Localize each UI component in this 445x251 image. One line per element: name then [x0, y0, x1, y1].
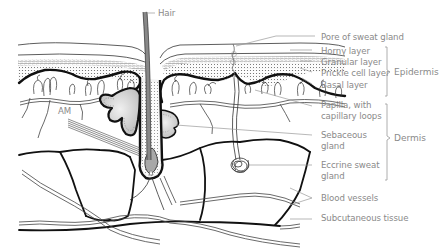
label-epidermis: Epidermis	[394, 67, 439, 77]
label-granular-layer: Granular layer	[321, 57, 382, 67]
hair-follicle	[140, 78, 163, 179]
label-eccrine-2: gland	[321, 171, 345, 181]
label-prickle-cell-layer: Prickle cell layer	[321, 68, 390, 78]
eccrine-sweat-gland	[231, 78, 249, 173]
label-basal-layer: Basal layer	[321, 80, 368, 90]
blood-vessels	[19, 139, 310, 247]
label-dermis: Dermis	[394, 133, 426, 143]
superficial-plexus	[20, 96, 345, 138]
label-pore: Pore of sweat gland	[321, 32, 404, 42]
label-horny-layer: Horny layer	[321, 46, 370, 56]
label-blood-vessels: Blood vessels	[321, 193, 379, 203]
label-hair: Hair	[158, 8, 176, 18]
label-subcutaneous-tissue: Subcutaneous tissue	[321, 213, 408, 223]
sebaceous-gland-left	[100, 88, 140, 135]
label-sebaceous-1: Sebaceous	[321, 130, 367, 140]
brackets	[385, 47, 390, 180]
label-papilla-1: Papilla, with	[321, 100, 371, 110]
skin-cross-section-diagram: Hair AM Pore of sweat gland Horny layer …	[0, 0, 445, 251]
epidermis-right	[160, 43, 345, 102]
label-eccrine-1: Eccrine sweat	[321, 160, 380, 170]
label-papilla-2: capillary loops	[321, 111, 382, 121]
label-sebaceous-2: gland	[321, 141, 345, 151]
label-am: AM	[58, 106, 71, 116]
dermis-bracket	[385, 104, 390, 180]
